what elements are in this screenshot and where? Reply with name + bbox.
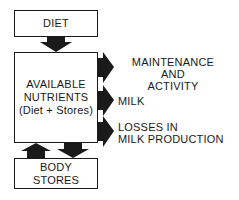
arrow-nutrients-to-stores — [57, 143, 89, 158]
body-stores-box: BODY STORES — [14, 158, 98, 189]
nutrients-line2: NUTRIENTS — [24, 91, 89, 104]
maintenance-line3: ACTIVITY — [118, 80, 228, 92]
nutrients-line3: (Diet + Stores) — [19, 104, 93, 117]
output-maintenance-label: MAINTENANCE AND ACTIVITY — [118, 56, 228, 92]
stores-line2: STORES — [33, 174, 79, 187]
maintenance-line1: MAINTENANCE — [118, 56, 228, 68]
losses-line1: LOSSES IN — [118, 121, 224, 133]
arrow-to-milk — [98, 85, 114, 116]
nutrients-line1: AVAILABLE — [26, 78, 85, 91]
output-milk-label: MILK — [118, 95, 144, 107]
milk-line1: MILK — [118, 95, 144, 107]
maintenance-line2: AND — [118, 68, 228, 80]
losses-line2: MILK PRODUCTION — [118, 133, 224, 145]
output-losses-label: LOSSES IN MILK PRODUCTION — [118, 121, 224, 145]
arrow-to-maintenance — [98, 52, 114, 83]
arrow-stores-to-nutrients — [21, 143, 51, 158]
arrow-to-losses — [98, 116, 114, 147]
available-nutrients-box: AVAILABLE NUTRIENTS (Diet + Stores) — [14, 52, 98, 143]
diet-label: DIET — [43, 17, 69, 30]
diet-box: DIET — [14, 10, 98, 37]
arrow-diet-to-nutrients — [40, 37, 72, 52]
stores-line1: BODY — [40, 161, 72, 174]
